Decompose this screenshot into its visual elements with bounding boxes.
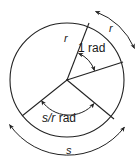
circle-center-point <box>66 79 68 81</box>
radian-measure-figure: r 1 rad s/r rad r s <box>0 0 140 163</box>
label-outer-arc-r: r <box>109 23 113 34</box>
label-s-over-r-fraction: s/r <box>42 111 55 125</box>
label-angle-s-over-r-rad: s/r rad <box>42 112 76 124</box>
label-radius-r: r <box>64 33 68 44</box>
inner-angle-arc-one-rad <box>79 53 95 70</box>
label-rad-unit: rad <box>55 111 76 125</box>
figure-canvas <box>0 0 140 163</box>
label-angle-one-rad: 1 rad <box>78 42 105 54</box>
label-outer-arc-s: s <box>66 145 72 156</box>
radius-line-right <box>67 62 123 80</box>
